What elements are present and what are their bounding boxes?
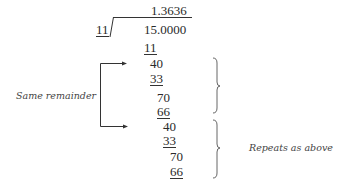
step-subtract-2: 33 xyxy=(150,72,163,86)
dividend: 15.0000 xyxy=(144,23,186,36)
step-subtract-5: 66 xyxy=(170,165,183,179)
step-remainder-1: 40 xyxy=(150,57,163,70)
repeats-as-above-label: Repeats as above xyxy=(249,143,333,153)
step-subtract-3: 66 xyxy=(157,105,170,119)
step-remainder-4: 70 xyxy=(170,150,183,163)
step-remainder-3: 40 xyxy=(163,120,176,133)
divisor: 11 xyxy=(96,23,109,37)
curly-brace-bottom-icon xyxy=(213,120,220,178)
arrow-head-top-icon xyxy=(122,62,127,66)
step-subtract-1: 11 xyxy=(144,41,157,55)
step-subtract-4: 33 xyxy=(163,134,176,148)
same-remainder-label: Same remainder xyxy=(16,91,96,101)
step-remainder-2: 70 xyxy=(157,91,170,104)
curly-brace-top-icon xyxy=(213,58,220,113)
same-remainder-bracket xyxy=(101,64,125,127)
arrow-head-bottom-icon xyxy=(123,125,128,129)
division-bracket-stroke xyxy=(110,17,114,37)
quotient: 1.3636 xyxy=(151,4,187,17)
